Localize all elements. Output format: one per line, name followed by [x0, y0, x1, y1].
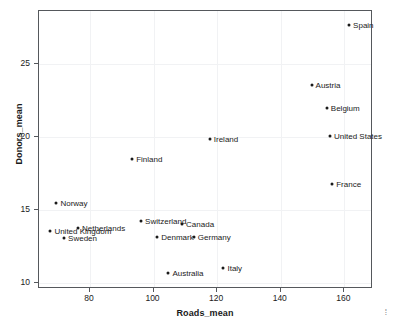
data-point[interactable] [181, 222, 184, 225]
data-point-label: United States [334, 131, 382, 140]
y-axis-tick-label: 20 [0, 131, 30, 141]
data-point[interactable] [325, 107, 328, 110]
data-point-label: Canada [186, 219, 214, 228]
data-point[interactable] [167, 272, 170, 275]
data-point[interactable] [331, 183, 334, 186]
data-point[interactable] [140, 219, 143, 222]
data-point-label: Sweden [68, 234, 97, 243]
y-axis-tick [34, 63, 38, 64]
data-point[interactable] [55, 202, 58, 205]
data-point-label: Belgium [331, 104, 360, 113]
gridline-vertical [154, 11, 155, 287]
data-point-label: Norway [60, 199, 87, 208]
data-point-label: France [336, 180, 361, 189]
gridline-horizontal [39, 64, 371, 65]
data-point-label: Germany [198, 232, 231, 241]
x-axis-tick-label: 120 [209, 293, 223, 303]
gridline-vertical [344, 11, 345, 287]
data-point[interactable] [156, 235, 159, 238]
data-point-label: Italy [227, 263, 242, 272]
data-point-label: Denmark [161, 232, 193, 241]
y-axis-tick-label: 25 [0, 58, 30, 68]
gridline-vertical [90, 11, 91, 287]
x-axis-tick [153, 288, 154, 292]
plot-panel [38, 10, 372, 288]
data-point-label: Australia [172, 269, 203, 278]
data-point[interactable] [49, 229, 52, 232]
gridline-horizontal [39, 210, 371, 211]
scatter-plot-figure: Donors_mean Roads_mean 80100120140160101… [0, 0, 393, 324]
y-axis-tick [34, 136, 38, 137]
gridline-horizontal [39, 137, 371, 138]
data-point-label: Austria [316, 80, 341, 89]
x-axis-tick-label: 100 [145, 293, 159, 303]
data-point[interactable] [208, 137, 211, 140]
data-point[interactable] [222, 266, 225, 269]
x-axis-tick [216, 288, 217, 292]
data-point-label: Ireland [214, 134, 238, 143]
y-axis-tick-label: 10 [0, 277, 30, 287]
y-axis-tick [34, 282, 38, 283]
data-point[interactable] [131, 158, 134, 161]
y-axis-tick-label: 15 [0, 204, 30, 214]
data-point[interactable] [63, 237, 66, 240]
x-axis-tick [343, 288, 344, 292]
plot-area [39, 11, 371, 287]
x-axis-tick-label: 140 [273, 293, 287, 303]
data-point[interactable] [310, 83, 313, 86]
data-point[interactable] [348, 23, 351, 26]
corner-artifact: ⦙ [385, 310, 391, 316]
gridline-vertical [217, 11, 218, 287]
data-point[interactable] [329, 134, 332, 137]
gridline-vertical [281, 11, 282, 287]
x-axis-tick [280, 288, 281, 292]
x-axis-tick-label: 80 [84, 293, 93, 303]
data-point-label: Spain [353, 20, 373, 29]
x-axis-tick [89, 288, 90, 292]
x-axis-tick-label: 160 [336, 293, 350, 303]
y-axis-tick [34, 209, 38, 210]
x-axis-title: Roads_mean [38, 308, 372, 318]
data-point-label: Finland [136, 155, 162, 164]
gridline-horizontal [39, 283, 371, 284]
data-point[interactable] [192, 235, 195, 238]
